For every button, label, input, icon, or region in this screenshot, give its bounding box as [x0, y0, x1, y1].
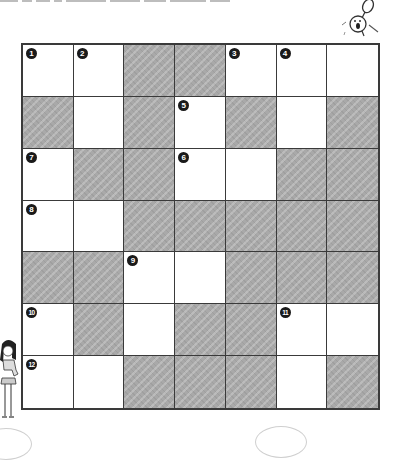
answer-cell[interactable]: 5 — [175, 97, 226, 149]
answer-cell[interactable]: 10 — [23, 304, 74, 356]
clue-number-badge: 12 — [26, 359, 37, 370]
answer-cell[interactable] — [277, 97, 328, 149]
shaded-cell — [327, 201, 378, 253]
shaded-cell — [327, 97, 378, 149]
answer-cell[interactable] — [175, 252, 226, 304]
answer-cell[interactable]: 7 — [23, 149, 74, 201]
shaded-cell — [226, 97, 277, 149]
shaded-cell — [74, 304, 125, 356]
shaded-cell — [226, 252, 277, 304]
shaded-cell — [124, 201, 175, 253]
clue-number-badge: 2 — [77, 48, 88, 59]
answer-cell[interactable]: 9 — [124, 252, 175, 304]
answer-cell[interactable]: 6 — [175, 149, 226, 201]
shaded-cell — [23, 252, 74, 304]
shaded-cell — [124, 356, 175, 408]
clue-number-badge: 9 — [127, 255, 138, 266]
clue-number-badge: 11 — [280, 307, 291, 318]
shaded-cell — [175, 45, 226, 97]
shaded-cell — [327, 149, 378, 201]
shaded-cell — [124, 97, 175, 149]
girl-character-icon — [0, 338, 20, 420]
clue-number-badge: 6 — [178, 152, 189, 163]
answer-cell[interactable]: 3 — [226, 45, 277, 97]
shaded-cell — [124, 45, 175, 97]
shaded-cell — [175, 304, 226, 356]
speech-bubble — [255, 426, 307, 458]
clue-number-badge: 10 — [26, 307, 37, 318]
answer-cell[interactable]: 1 — [23, 45, 74, 97]
cropped-heading-text — [0, 0, 250, 6]
shaded-cell — [226, 304, 277, 356]
speech-bubble — [0, 428, 32, 460]
clue-number-badge: 3 — [229, 48, 240, 59]
shaded-cell — [23, 97, 74, 149]
shaded-cell — [327, 252, 378, 304]
answer-cell[interactable] — [74, 201, 125, 253]
clue-number-badge: 4 — [280, 48, 291, 59]
shaded-cell — [327, 356, 378, 408]
shaded-cell — [226, 356, 277, 408]
clue-number-badge: 5 — [178, 100, 189, 111]
clue-number-badge: 1 — [26, 48, 37, 59]
shaded-cell — [74, 149, 125, 201]
shaded-cell — [277, 252, 328, 304]
shaded-cell — [74, 252, 125, 304]
crossword-grid: 123457689101112 — [21, 43, 380, 410]
answer-cell[interactable]: 4 — [277, 45, 328, 97]
answer-cell[interactable]: 8 — [23, 201, 74, 253]
answer-cell[interactable] — [327, 45, 378, 97]
answer-cell[interactable] — [124, 304, 175, 356]
answer-cell[interactable] — [226, 149, 277, 201]
answer-cell[interactable]: 12 — [23, 356, 74, 408]
shaded-cell — [277, 201, 328, 253]
answer-cell[interactable] — [327, 304, 378, 356]
shaded-cell — [175, 201, 226, 253]
shaded-cell — [175, 356, 226, 408]
clue-number-badge: 8 — [26, 204, 37, 215]
shaded-cell — [124, 149, 175, 201]
answer-cell[interactable] — [74, 97, 125, 149]
answer-cell[interactable]: 11 — [277, 304, 328, 356]
answer-cell[interactable] — [277, 356, 328, 408]
answer-cell[interactable]: 2 — [74, 45, 125, 97]
shaded-cell — [277, 149, 328, 201]
clue-number-badge: 7 — [26, 152, 37, 163]
answer-cell[interactable] — [74, 356, 125, 408]
surprised-character-icon — [338, 0, 388, 46]
shaded-cell — [226, 201, 277, 253]
